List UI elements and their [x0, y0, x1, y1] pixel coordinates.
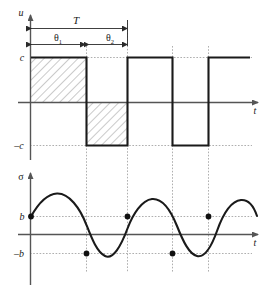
label-theta1-subscript: 1	[59, 38, 62, 45]
marker-point	[125, 214, 131, 220]
hatched-region-negative	[87, 102, 128, 146]
bottom-panel: σ t b –b	[13, 171, 258, 285]
label-theta2: θ2	[106, 32, 114, 45]
label-theta1: θ1	[54, 32, 62, 45]
marker-point	[206, 214, 212, 220]
bottom-y-axis-label: σ	[18, 171, 24, 182]
bottom-tick-label-b: b	[20, 211, 25, 222]
marker-point	[28, 214, 34, 220]
top-x-axis-label: t	[254, 105, 257, 116]
hatched-region-positive	[31, 58, 87, 103]
marker-point	[84, 251, 90, 257]
top-tick-label-c: c	[20, 52, 25, 63]
figure-container: T θ1 θ2 u t c –c	[0, 0, 278, 292]
waveform-figure: T θ1 θ2 u t c –c	[0, 0, 278, 292]
bottom-tick-label-neg-b: –b	[13, 248, 24, 259]
label-theta2-subscript: 2	[111, 38, 114, 45]
bottom-x-axis-label: t	[254, 237, 257, 248]
top-y-axis-label: u	[19, 7, 24, 18]
sine-waveform	[31, 193, 257, 256]
marker-point	[170, 251, 176, 257]
top-panel: T θ1 θ2 u t c –c	[13, 7, 258, 272]
top-tick-label-neg-c: –c	[13, 140, 24, 151]
label-period-T: T	[73, 14, 80, 26]
